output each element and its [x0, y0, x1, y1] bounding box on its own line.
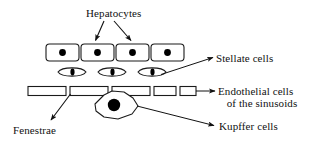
label-hepatocytes: Hepatocytes [86, 7, 141, 19]
endothelial-cell [154, 87, 176, 96]
endothelial-cell [180, 87, 196, 96]
stellate-nucleus [110, 69, 114, 76]
arrow-fenestrae [51, 94, 71, 120]
hepatocyte-cell [81, 44, 114, 61]
hepatocyte-row [46, 44, 184, 61]
label-endothelial-cells: Endothelial cellsof the sinusoids [218, 85, 316, 109]
stellate-cell [98, 68, 126, 76]
arrow-hepatocytes-left [96, 21, 105, 41]
arrow-hepatocytes-right [114, 21, 131, 41]
label-stellate-cells: Stellate cells [216, 52, 273, 64]
hepatocyte-nucleus [164, 49, 171, 56]
endothelial-cell [28, 87, 66, 96]
stellate-nucleus [150, 69, 154, 76]
label-endothelial-line2: of the sinusoids [218, 97, 306, 109]
hepatocyte-nucleus [59, 49, 66, 56]
stellate-nucleus [70, 69, 74, 76]
kupffer-nucleus [108, 99, 120, 111]
stellate-cell-row [58, 68, 166, 76]
hepatocyte-cell [116, 44, 149, 61]
endothelial-cell [70, 87, 108, 96]
stellate-cell [58, 68, 86, 76]
arrow-kupffer-cells [137, 106, 214, 126]
hepatocyte-cell [46, 44, 79, 61]
stellate-cell [138, 68, 166, 76]
label-endothelial-line1: Endothelial cells [218, 85, 293, 97]
hepatocyte-nucleus [129, 49, 136, 56]
label-kupffer-cells: Kupffer cells [219, 120, 278, 132]
liver-sinusoid-diagram: Hepatocytes Stellate cells Endothelial c… [0, 0, 319, 142]
hepatocyte-nucleus [94, 49, 101, 56]
label-fenestrae: Fenestrae [13, 124, 56, 136]
hepatocyte-cell [151, 44, 184, 61]
